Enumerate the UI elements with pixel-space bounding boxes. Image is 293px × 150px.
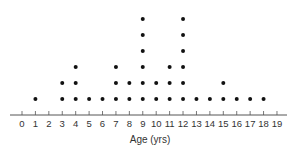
data-dot: [181, 81, 185, 85]
data-dot: [141, 81, 145, 85]
x-tick-label: 8: [127, 118, 132, 129]
data-dot: [221, 81, 225, 85]
data-dots: [33, 17, 265, 101]
x-tick-label: 12: [178, 118, 189, 129]
x-tick-label: 15: [218, 118, 229, 129]
data-dot: [114, 97, 118, 101]
x-tick-label: 1: [33, 118, 38, 129]
data-dot: [154, 81, 158, 85]
x-tick-label: 6: [100, 118, 105, 129]
x-tick-label: 0: [19, 118, 24, 129]
x-tick-label: 7: [113, 118, 118, 129]
data-dot: [74, 97, 78, 101]
x-tick-label: 3: [60, 118, 65, 129]
x-tick-label: 14: [205, 118, 216, 129]
data-dot: [221, 97, 225, 101]
data-dot: [208, 97, 212, 101]
data-dot: [141, 97, 145, 101]
data-dot: [181, 17, 185, 21]
data-dot: [74, 65, 78, 69]
x-tick-label: 17: [245, 118, 256, 129]
data-dot: [127, 97, 131, 101]
data-dot: [168, 65, 172, 69]
x-tick-label: 11: [165, 118, 175, 129]
x-axis-tick-labels: 012345678910111213141516171819: [19, 118, 282, 129]
data-dot: [33, 97, 37, 101]
data-dot: [262, 97, 266, 101]
x-tick-label: 2: [46, 118, 51, 129]
x-tick-label: 19: [272, 118, 283, 129]
x-tick-label: 16: [231, 118, 242, 129]
data-dot: [181, 49, 185, 53]
x-tick-label: 9: [140, 118, 145, 129]
data-dot: [168, 81, 172, 85]
data-dot: [248, 97, 252, 101]
x-axis-label: Age (yrs): [130, 134, 171, 145]
x-tick-label: 5: [86, 118, 91, 129]
data-dot: [141, 17, 145, 21]
data-dot: [101, 97, 105, 101]
data-dot: [114, 65, 118, 69]
data-dot: [181, 97, 185, 101]
data-dot: [127, 81, 131, 85]
data-dot: [141, 33, 145, 37]
data-dot: [87, 97, 91, 101]
x-tick-label: 18: [258, 118, 269, 129]
data-dot: [114, 81, 118, 85]
dot-plot: 012345678910111213141516171819 Age (yrs): [0, 0, 293, 150]
data-dot: [235, 97, 239, 101]
x-tick-label: 4: [73, 118, 78, 129]
data-dot: [181, 65, 185, 69]
x-axis-ticks: [22, 111, 277, 115]
x-tick-label: 10: [151, 118, 162, 129]
data-dot: [141, 49, 145, 53]
data-dot: [181, 33, 185, 37]
data-dot: [141, 65, 145, 69]
data-dot: [60, 81, 64, 85]
data-dot: [74, 81, 78, 85]
x-tick-label: 13: [191, 118, 202, 129]
data-dot: [168, 97, 172, 101]
data-dot: [194, 97, 198, 101]
data-dot: [60, 97, 64, 101]
data-dot: [154, 97, 158, 101]
